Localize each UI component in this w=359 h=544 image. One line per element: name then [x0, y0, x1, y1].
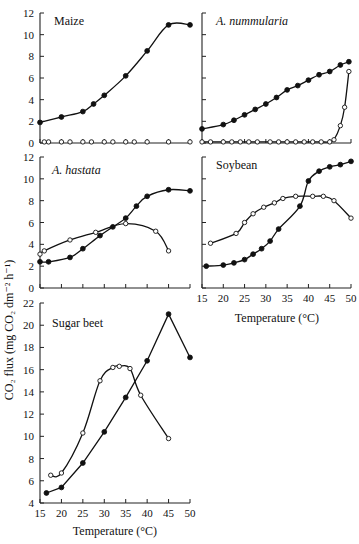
filled-marker: [98, 233, 103, 238]
open-marker: [111, 140, 115, 144]
filled-marker: [327, 164, 332, 169]
y-tick-label: 12: [23, 408, 34, 420]
series-line-filled: [46, 314, 190, 493]
open-marker: [302, 140, 306, 144]
x-tick-label: 15: [197, 292, 209, 304]
open-marker: [242, 220, 246, 224]
open-marker: [310, 140, 314, 144]
filled-marker: [285, 88, 290, 93]
filled-marker: [80, 109, 85, 114]
open-marker: [328, 140, 332, 144]
open-marker: [268, 140, 272, 144]
open-marker: [42, 249, 46, 253]
open-marker: [98, 379, 102, 383]
open-marker: [208, 140, 212, 144]
filled-marker: [259, 246, 264, 251]
filled-marker: [306, 179, 311, 184]
open-marker: [59, 140, 63, 144]
open-marker: [128, 366, 132, 370]
open-marker: [208, 241, 212, 245]
open-marker: [132, 140, 136, 144]
filled-marker: [166, 312, 171, 317]
filled-marker: [221, 122, 226, 127]
filled-marker: [274, 95, 279, 100]
open-marker: [234, 231, 238, 235]
filled-marker: [232, 118, 237, 123]
filled-marker: [38, 120, 43, 125]
x-tick-label: 50: [346, 292, 358, 304]
panel-sugar-beet: 468101214161820221520253035404550Sugar b…: [23, 297, 196, 519]
filled-marker: [38, 259, 43, 264]
open-marker: [255, 140, 259, 144]
y-tick-label: 12: [23, 7, 34, 19]
x-tick-label: 45: [324, 292, 336, 304]
open-marker: [188, 140, 192, 144]
y-tick-label: 6: [29, 72, 35, 84]
open-marker: [94, 230, 98, 234]
filled-marker: [123, 73, 128, 78]
filled-marker: [253, 107, 258, 112]
filled-marker: [145, 49, 150, 54]
x-tick-label: 25: [239, 292, 251, 304]
x-tick-label: 20: [218, 292, 230, 304]
y-tick-label: 2: [29, 260, 35, 272]
panel-title: A. hastata: [51, 163, 101, 177]
filled-marker: [59, 485, 64, 490]
open-marker: [139, 393, 143, 397]
open-marker: [102, 140, 106, 144]
open-marker: [321, 194, 325, 198]
y-tick-label: 6: [29, 475, 35, 487]
filled-marker: [263, 102, 268, 107]
filled-marker: [276, 227, 281, 232]
y-tick-label: 10: [23, 173, 35, 185]
open-marker: [230, 140, 234, 144]
filled-marker: [68, 255, 73, 260]
panel-title: A. nummularia: [215, 14, 288, 28]
x-tick-label: 25: [77, 507, 89, 519]
filled-marker: [166, 23, 171, 28]
open-marker: [200, 140, 204, 144]
open-marker: [347, 69, 351, 73]
x-tick-label: 45: [163, 507, 175, 519]
y-tick-label: 4: [29, 238, 35, 250]
open-marker: [310, 194, 314, 198]
open-marker: [276, 140, 280, 144]
open-marker: [124, 221, 128, 225]
y-tick-label: 2: [29, 115, 35, 127]
figure: 024681012MaizeA. nummularia024681012A. h…: [0, 0, 359, 544]
filled-marker: [44, 491, 49, 496]
filled-marker: [298, 204, 303, 209]
multi-panel-chart: 024681012MaizeA. nummularia024681012A. h…: [0, 0, 359, 544]
open-marker: [319, 140, 323, 144]
filled-marker: [349, 159, 354, 164]
y-tick-label: 6: [29, 217, 35, 229]
filled-marker: [221, 263, 226, 268]
x-tick-label: 40: [303, 292, 315, 304]
open-marker: [117, 364, 121, 368]
open-marker: [46, 140, 50, 144]
panel-maize: 024681012Maize: [23, 7, 192, 149]
y-tick-label: 10: [23, 430, 35, 442]
open-marker: [221, 140, 225, 144]
open-marker: [293, 194, 297, 198]
y-tick-label: 8: [29, 195, 35, 207]
filled-marker: [59, 115, 64, 120]
filled-marker: [123, 395, 128, 400]
open-marker: [251, 212, 255, 216]
filled-marker: [46, 259, 51, 264]
filled-marker: [145, 194, 150, 199]
open-marker: [285, 140, 289, 144]
open-marker: [166, 436, 170, 440]
y-tick-label: 20: [23, 319, 35, 331]
series-line-open: [51, 366, 169, 477]
open-marker: [42, 140, 46, 144]
open-marker: [59, 471, 63, 475]
y-tick-label: 0: [29, 137, 35, 149]
y-axis-title: CO₂ flux (mg CO₂ dm⁻² h⁻¹): [2, 260, 16, 401]
filled-marker: [317, 169, 322, 174]
panel-soybean: 1520253035404550Soybean: [197, 157, 358, 304]
filled-marker: [338, 63, 343, 68]
filled-marker: [80, 246, 85, 251]
open-marker: [281, 196, 285, 200]
open-marker: [262, 205, 266, 209]
